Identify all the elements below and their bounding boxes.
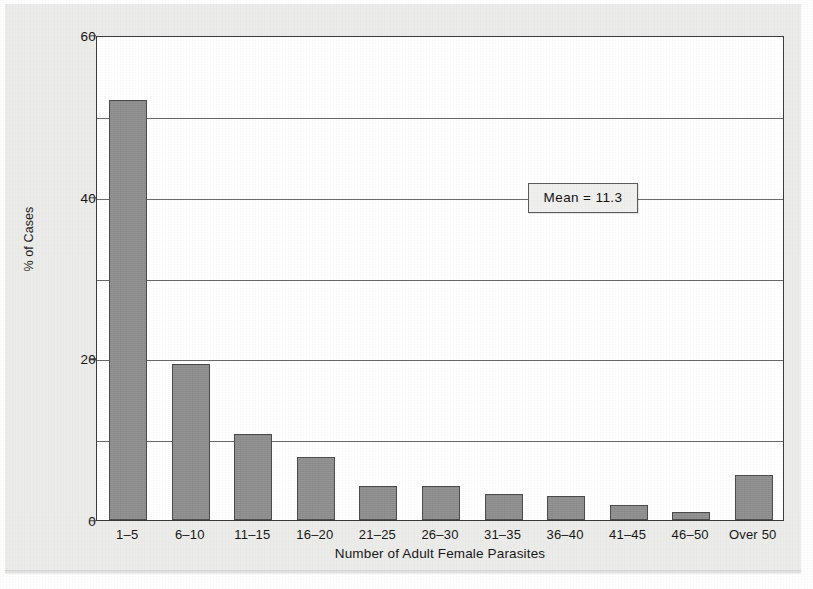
x-tick-label-10: Over 50 — [721, 527, 784, 542]
y-tick-mark-60 — [89, 35, 96, 36]
y-tick-mark-0 — [89, 520, 96, 521]
y-tick-mark-20 — [89, 359, 96, 360]
gridline-40 — [97, 199, 783, 200]
bar-1 — [172, 364, 210, 520]
bar-chart-figure: % of Cases 0204060 Mean = 11.3 Number of… — [0, 0, 813, 589]
x-tick-label-3: 16–20 — [284, 527, 347, 542]
x-tick-label-8: 41–45 — [596, 527, 659, 542]
x-tick-label-2: 11–15 — [221, 527, 284, 542]
bar-0 — [109, 100, 147, 520]
scanned-page: % of Cases 0204060 Mean = 11.3 Number of… — [0, 0, 813, 589]
x-tick-label-9: 46–50 — [659, 527, 722, 542]
bar-6 — [485, 494, 523, 520]
gridline-20 — [97, 360, 783, 361]
gridline-30 — [97, 280, 783, 281]
bar-9 — [672, 512, 710, 520]
x-tick-label-4: 21–25 — [346, 527, 409, 542]
x-tick-label-5: 26–30 — [409, 527, 472, 542]
y-tick-mark-40 — [89, 197, 96, 198]
x-tick-label-7: 36–40 — [534, 527, 597, 542]
x-tick-label-1: 6–10 — [159, 527, 222, 542]
bar-7 — [547, 496, 585, 520]
bar-8 — [610, 505, 648, 520]
bar-4 — [359, 486, 397, 520]
mean-annotation: Mean = 11.3 — [528, 183, 638, 213]
mean-annotation-label: Mean = 11.3 — [544, 190, 623, 205]
bar-10 — [735, 475, 773, 520]
bar-3 — [297, 457, 335, 520]
bar-5 — [422, 486, 460, 520]
x-axis-title: Number of Adult Female Parasites — [96, 546, 784, 561]
gridline-50 — [97, 118, 783, 119]
plot-area — [96, 36, 784, 521]
bar-2 — [234, 434, 272, 520]
x-tick-label-6: 31–35 — [471, 527, 534, 542]
y-axis-title: % of Cases — [22, 179, 36, 299]
x-tick-label-0: 1–5 — [96, 527, 159, 542]
y-axis: 0204060 — [38, 36, 96, 521]
